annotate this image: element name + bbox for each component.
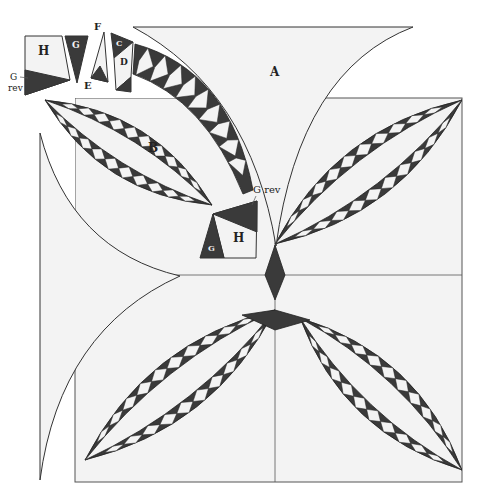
label-g-rev-left-2: rev xyxy=(8,83,24,93)
label-g-bottom: G xyxy=(208,243,215,253)
label-d: D xyxy=(120,57,128,67)
label-g-rev-left-1: G xyxy=(10,72,17,82)
label-g-top: G xyxy=(72,40,80,50)
label-h-top: H xyxy=(38,44,49,58)
label-a: A xyxy=(269,65,280,79)
label-e: E xyxy=(84,80,92,91)
label-h-bottom: H xyxy=(233,231,244,245)
label-g-rev-right: G rev xyxy=(253,184,281,195)
quilt-diagram: A B C D E F G H G rev G rev G H xyxy=(0,0,485,494)
label-f: F xyxy=(94,21,101,32)
label-c: C xyxy=(116,38,122,48)
label-b: B xyxy=(148,141,158,155)
